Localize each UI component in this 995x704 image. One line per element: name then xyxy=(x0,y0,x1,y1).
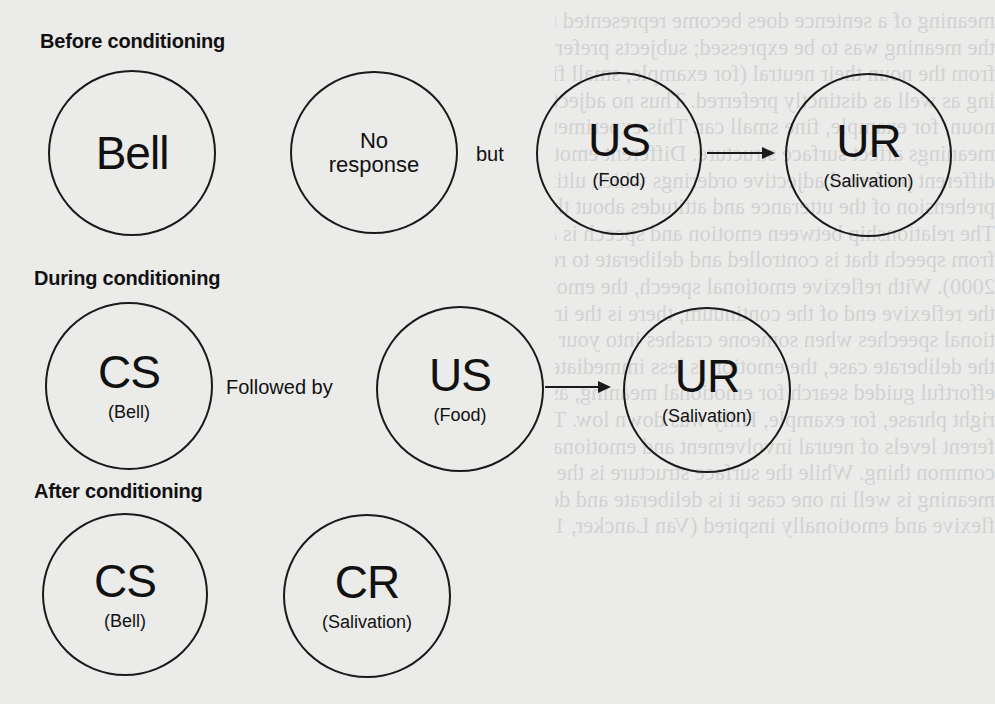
node-bell: Bell xyxy=(48,70,216,236)
connector-followed-by: Followed by xyxy=(226,376,333,399)
node-cs: CS (Bell) xyxy=(42,513,208,676)
node-cs: CS (Bell) xyxy=(45,302,213,470)
section-heading-after: After conditioning xyxy=(34,480,203,503)
node-sublabel: (Food) xyxy=(592,169,645,191)
node-label-line2: response xyxy=(329,153,420,177)
node-ur: UR (Salivation) xyxy=(623,307,791,473)
node-label: UR xyxy=(836,118,900,164)
section-heading-before: Before conditioning xyxy=(40,30,225,53)
node-label: No xyxy=(360,129,388,153)
node-label: UR xyxy=(675,353,739,399)
node-label: US xyxy=(588,117,650,163)
node-sublabel: (Bell) xyxy=(108,401,150,423)
node-sublabel: (Salivation) xyxy=(322,611,412,633)
connector-but: but xyxy=(476,143,504,166)
node-label: CS xyxy=(94,558,156,604)
node-sublabel: (Salivation) xyxy=(662,405,752,427)
node-sublabel: (Salivation) xyxy=(823,170,913,192)
node-sublabel: (Food) xyxy=(433,404,486,426)
node-label: CR xyxy=(335,559,399,605)
node-us: US (Food) xyxy=(376,306,544,472)
node-label: Bell xyxy=(96,130,169,176)
node-label: CS xyxy=(98,349,160,395)
node-label: US xyxy=(429,352,491,398)
arrow-us-to-ur xyxy=(545,386,609,388)
node-us: US (Food) xyxy=(536,72,702,235)
node-sublabel: (Bell) xyxy=(104,610,146,632)
node-ur: UR (Salivation) xyxy=(785,73,952,237)
section-heading-during: During conditioning xyxy=(34,267,220,290)
node-cr: CR (Salivation) xyxy=(283,514,451,678)
arrow-us-to-ur xyxy=(707,152,773,154)
node-no-response: No response xyxy=(290,71,458,234)
